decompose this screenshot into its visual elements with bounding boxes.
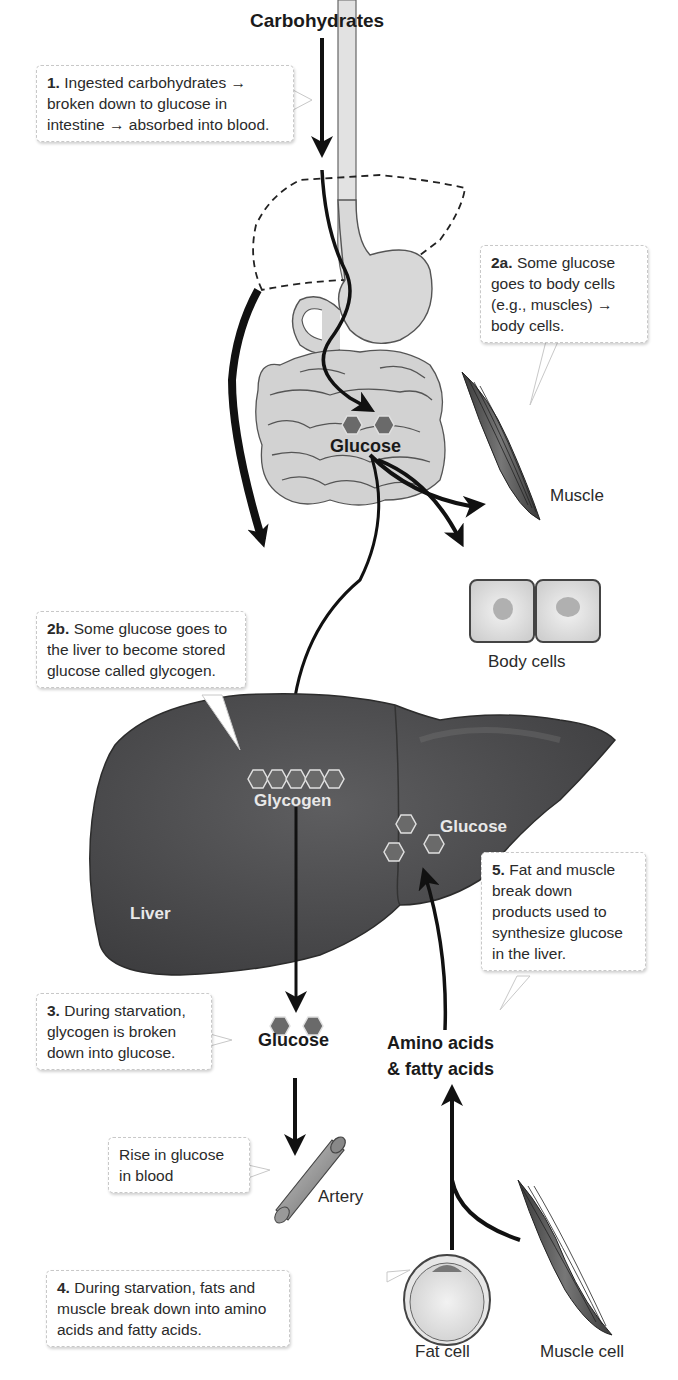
step-number: 2a. bbox=[491, 254, 513, 271]
glucose-metabolism-diagram bbox=[0, 0, 678, 1380]
step-text: During starvation, glycogen is broken do… bbox=[47, 1002, 186, 1061]
step-number: 4. bbox=[57, 1279, 70, 1296]
artery-illustration bbox=[272, 1134, 349, 1226]
liver-label: Liver bbox=[130, 904, 171, 924]
callout-step-2b: 2b. Some glucose goes to the liver to be… bbox=[36, 611, 246, 688]
step-text: During starvation, fats and muscle break… bbox=[57, 1279, 266, 1338]
muscle-illustration bbox=[462, 372, 540, 520]
callout-step-4: 4. During starvation, fats and muscle br… bbox=[46, 1270, 290, 1347]
glucose-intestine-label: Glucose bbox=[330, 436, 401, 457]
step-number: 1. bbox=[47, 74, 60, 91]
stomach bbox=[293, 200, 433, 354]
muscle-merge-curve bbox=[452, 1180, 520, 1240]
glycogen-label: Glycogen bbox=[254, 791, 331, 811]
callout-step-2a: 2a. Some glucose goes to body cells (e.g… bbox=[480, 245, 648, 343]
glucose-released-label: Glucose bbox=[258, 1030, 329, 1051]
diagram-title: Carbohydrates bbox=[250, 10, 384, 32]
step-text: Fat and muscle break down products used … bbox=[492, 861, 623, 962]
step-number: 5. bbox=[492, 861, 505, 878]
amino-acids-line-1: Amino acids bbox=[387, 1030, 494, 1056]
callout-step-5: 5. Fat and muscle break down products us… bbox=[481, 852, 646, 971]
step-number: 2b. bbox=[47, 620, 69, 637]
body-cells-illustration bbox=[470, 580, 600, 642]
callout-step-3: 3. During starvation, glycogen is broken… bbox=[36, 993, 212, 1070]
glucose-liver-label: Glucose bbox=[440, 817, 507, 837]
callout-step-1: 1. Ingested carbohydrates → broken down … bbox=[36, 65, 294, 142]
glycogen-chain bbox=[248, 770, 344, 788]
artery-label: Artery bbox=[318, 1187, 363, 1207]
step-text: Ingested carbohydrates → broken down to … bbox=[47, 74, 269, 133]
callout-text: Rise in glucose in blood bbox=[119, 1146, 224, 1184]
step-text: Some glucose goes to the liver to become… bbox=[47, 620, 227, 679]
amino-acids-line-2: & fatty acids bbox=[387, 1056, 494, 1082]
step-number: 3. bbox=[47, 1002, 60, 1019]
callout-rise-in-glucose: Rise in glucose in blood bbox=[108, 1137, 250, 1193]
fat-cell-label: Fat cell bbox=[415, 1342, 470, 1362]
amino-acids-label: Amino acids & fatty acids bbox=[387, 1030, 494, 1082]
muscle-cell-label: Muscle cell bbox=[540, 1342, 624, 1362]
muscle-cell-illustration bbox=[518, 1180, 612, 1335]
muscle-label: Muscle bbox=[550, 486, 604, 506]
fat-cell-illustration bbox=[404, 1255, 490, 1345]
body-cells-label: Body cells bbox=[488, 652, 565, 672]
